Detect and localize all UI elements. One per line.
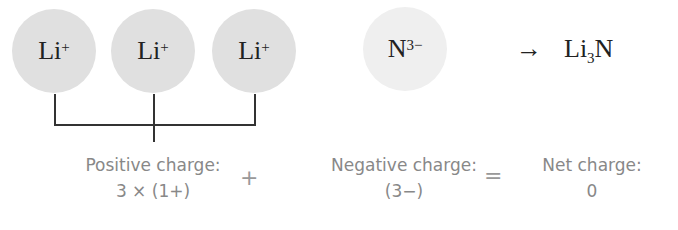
nitride-ion: N3−	[363, 7, 447, 91]
ion-charge: +	[261, 39, 269, 56]
net-charge-title: Net charge:	[522, 152, 662, 178]
plus-sign: +	[240, 165, 258, 190]
negative-charge-label: Negative charge: (3−)	[304, 152, 504, 204]
positive-charge-title: Positive charge:	[53, 152, 253, 178]
ion-charge: +	[160, 39, 168, 56]
negative-charge-title: Negative charge:	[304, 152, 504, 178]
positive-charge-label: Positive charge: 3 × (1+)	[53, 152, 253, 204]
lithium-ion-1: Li+	[12, 9, 96, 93]
product-formula: Li3N	[564, 34, 613, 67]
ion-charge: +	[61, 39, 69, 56]
ion-symbol: Li	[38, 36, 61, 66]
bracket-left-stem	[54, 94, 56, 125]
lithium-ion-3: Li+	[212, 9, 296, 93]
equals-sign: =	[484, 163, 502, 188]
negative-charge-value: (3−)	[304, 178, 504, 204]
bracket-middle-stem	[153, 94, 155, 142]
product-prefix: Li	[564, 34, 587, 63]
ion-charge: 3−	[406, 37, 422, 54]
product-subscript: 3	[587, 50, 595, 66]
ion-symbol: N	[388, 34, 407, 64]
product-suffix: N	[595, 34, 614, 63]
net-charge-label: Net charge: 0	[522, 152, 662, 204]
bracket-bar	[54, 124, 256, 126]
ion-symbol: Li	[238, 36, 261, 66]
net-charge-value: 0	[522, 178, 662, 204]
ion-symbol: Li	[137, 36, 160, 66]
positive-charge-value: 3 × (1+)	[53, 178, 253, 204]
reaction-arrow: →	[516, 34, 542, 64]
lithium-ion-2: Li+	[111, 9, 195, 93]
bracket-right-stem	[254, 94, 256, 125]
